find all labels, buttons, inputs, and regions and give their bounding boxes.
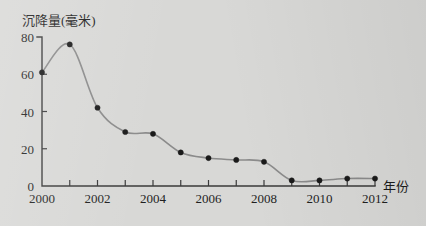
data-point-marker <box>289 178 294 183</box>
axis-lines <box>37 37 375 186</box>
y-tick-label: 80 <box>21 30 34 45</box>
y-tick-label: 20 <box>21 142 34 157</box>
settlement-line-chart: 020406080 2000200220042006200820102012 沉… <box>0 0 426 226</box>
settlement-curve <box>42 44 375 182</box>
data-point-marker <box>67 42 72 47</box>
x-tick-label: 2002 <box>85 191 111 206</box>
x-tick-label: 2008 <box>251 191 277 206</box>
data-point-marker <box>39 70 44 75</box>
data-point-marker <box>206 155 211 160</box>
y-tick-label: 40 <box>21 105 34 120</box>
x-axis-title: 年份 <box>383 179 409 194</box>
data-point-marker <box>234 157 239 162</box>
y-tick-label: 60 <box>21 67 34 82</box>
data-point-marker <box>123 129 128 134</box>
x-axis-tick-labels: 2000200220042006200820102012 <box>29 191 388 206</box>
axis-group <box>37 37 375 186</box>
x-tick-label: 2004 <box>140 191 167 206</box>
chart-canvas: 020406080 2000200220042006200820102012 沉… <box>0 0 426 226</box>
y-axis-title: 沉降量(毫米) <box>22 13 96 28</box>
data-point-marker <box>178 150 183 155</box>
data-point-marker <box>372 176 377 181</box>
x-tick-label: 2010 <box>307 191 333 206</box>
data-point-marker <box>261 159 266 164</box>
y-axis-tick-labels: 020406080 <box>21 30 34 194</box>
x-tick-label: 2006 <box>196 191 223 206</box>
data-point-markers <box>39 42 377 183</box>
data-point-marker <box>150 131 155 136</box>
y-axis-tick-marks <box>42 74 47 149</box>
data-point-marker <box>317 178 322 183</box>
data-point-marker <box>345 176 350 181</box>
x-tick-label: 2000 <box>29 191 55 206</box>
data-point-marker <box>95 105 100 110</box>
x-axis-tick-marks <box>70 180 375 186</box>
